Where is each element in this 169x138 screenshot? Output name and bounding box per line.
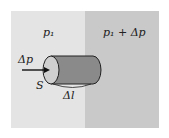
length-brace	[53, 84, 91, 88]
label-area-s: S	[36, 79, 44, 92]
label-length-dl: Δl	[63, 89, 74, 102]
label-force-dp: Δp	[18, 53, 33, 66]
label-p1: p₁	[43, 26, 54, 39]
label-p1-plus-dp: p₁ + Δp	[103, 26, 146, 39]
diagram-frame: p₁ p₁ + Δp Δp S Δl	[11, 11, 159, 128]
